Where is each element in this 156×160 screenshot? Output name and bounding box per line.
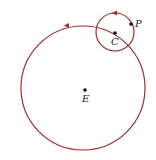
point-p-label: P	[134, 18, 142, 29]
small-epicycle-arrow-icon	[112, 11, 117, 16]
large-orbit-circle	[21, 26, 145, 150]
large-orbit-arrow-icon	[64, 23, 69, 28]
point-c-label: C	[111, 36, 119, 47]
point-e-dot	[83, 88, 87, 92]
point-e-label: E	[81, 93, 90, 104]
point-p-dot	[129, 22, 133, 26]
epicycle-diagram: E C P	[0, 0, 156, 160]
point-c-dot	[113, 31, 117, 35]
